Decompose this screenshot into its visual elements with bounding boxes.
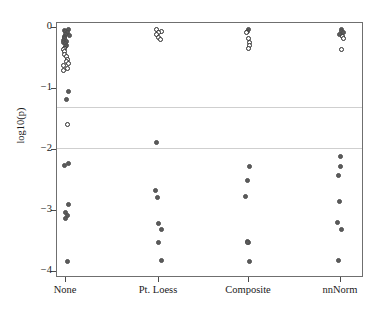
data-point bbox=[66, 202, 71, 207]
x-tick-label-pt-loess: Pt. Loess bbox=[108, 285, 208, 296]
data-point bbox=[65, 259, 70, 264]
data-point bbox=[336, 173, 341, 178]
y-tick-label: −1 bbox=[12, 82, 52, 93]
plot-area bbox=[57, 23, 362, 276]
data-point bbox=[61, 68, 66, 73]
data-point bbox=[245, 178, 250, 183]
data-point bbox=[158, 37, 163, 42]
plot-frame bbox=[56, 22, 363, 277]
data-point bbox=[337, 199, 342, 204]
data-point bbox=[66, 89, 71, 94]
gridline-y-1 bbox=[57, 148, 362, 149]
x-tick-label-none: None bbox=[15, 285, 115, 296]
data-point bbox=[243, 194, 248, 199]
data-point bbox=[63, 216, 68, 221]
data-point bbox=[335, 220, 340, 225]
y-tick-label: −4 bbox=[12, 265, 52, 276]
data-point bbox=[339, 47, 344, 52]
data-point bbox=[67, 33, 72, 38]
x-tick-mark bbox=[340, 277, 341, 282]
data-point bbox=[338, 164, 343, 169]
scatter-plot-figure: log10(p) 0−1−2−3−4 NonePt. LoessComposit… bbox=[0, 0, 376, 314]
data-point bbox=[341, 36, 346, 41]
x-tick-label-composite: Composite bbox=[198, 285, 298, 296]
data-point bbox=[159, 258, 164, 263]
x-tick-mark bbox=[158, 277, 159, 282]
y-tick-label: 0 bbox=[12, 21, 52, 32]
data-point bbox=[244, 30, 249, 35]
x-tick-mark bbox=[248, 277, 249, 282]
data-point bbox=[154, 140, 159, 145]
data-point bbox=[155, 195, 160, 200]
data-point bbox=[64, 97, 69, 102]
x-tick-label-nnnorm: nnNorm bbox=[290, 285, 376, 296]
data-point bbox=[247, 164, 252, 169]
data-point bbox=[339, 227, 344, 232]
data-point bbox=[156, 240, 161, 245]
x-tick-mark bbox=[65, 277, 66, 282]
y-tick-label: −3 bbox=[12, 204, 52, 215]
gridline-y-0 bbox=[57, 107, 362, 108]
data-point bbox=[62, 163, 67, 168]
data-point bbox=[338, 154, 343, 159]
data-point bbox=[247, 259, 252, 264]
data-point bbox=[153, 188, 158, 193]
data-point bbox=[156, 221, 161, 226]
y-axis-label: log10(p) bbox=[15, 86, 26, 166]
data-point bbox=[246, 46, 251, 51]
data-point bbox=[159, 227, 164, 232]
y-tick-label: −2 bbox=[12, 143, 52, 154]
data-point bbox=[65, 122, 70, 127]
data-point bbox=[336, 258, 341, 263]
